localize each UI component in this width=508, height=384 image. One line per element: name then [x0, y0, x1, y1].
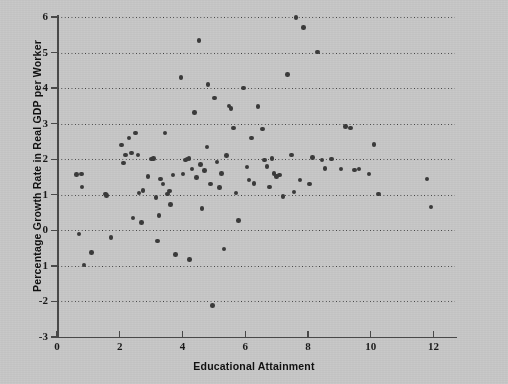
data-point	[222, 247, 227, 252]
x-tick-label: 12	[419, 340, 449, 352]
data-point	[200, 206, 205, 211]
data-point	[155, 239, 160, 244]
data-point	[256, 104, 261, 109]
data-point	[129, 151, 134, 156]
data-point	[292, 190, 297, 195]
data-point	[260, 127, 265, 132]
data-point	[301, 25, 306, 30]
data-point	[208, 182, 213, 187]
y-tick-mark	[51, 265, 57, 266]
data-point	[139, 220, 144, 225]
data-point	[167, 189, 172, 194]
x-tick-mark	[307, 331, 308, 337]
data-point	[179, 75, 184, 80]
y-tick-label-wrap: -3	[0, 330, 48, 342]
data-point	[277, 173, 282, 178]
gridline	[58, 17, 455, 18]
data-point	[323, 166, 328, 171]
y-axis-line	[57, 15, 59, 338]
data-point	[154, 195, 159, 200]
data-point	[267, 185, 272, 190]
gridline	[58, 301, 455, 302]
data-point	[217, 185, 222, 190]
data-point	[315, 50, 320, 55]
x-axis-title: Educational Attainment	[0, 360, 508, 372]
data-point	[158, 177, 163, 182]
data-point	[187, 156, 192, 161]
data-point	[190, 167, 195, 172]
scatter-plot-figure: 65432101-2-3 024681012 Educational Attai…	[0, 0, 508, 384]
gridline	[58, 88, 455, 89]
data-point	[241, 86, 246, 91]
data-point	[202, 168, 207, 173]
data-point	[281, 194, 286, 199]
data-point	[74, 172, 79, 177]
data-point	[224, 153, 229, 158]
gridline	[58, 159, 455, 160]
y-tick-mark	[51, 230, 57, 231]
data-point	[104, 193, 109, 198]
data-point	[339, 167, 344, 172]
y-tick-mark	[51, 87, 57, 88]
data-point	[121, 161, 126, 166]
x-tick-mark	[245, 331, 246, 337]
data-point	[79, 172, 84, 177]
gridline	[58, 53, 455, 54]
data-point	[157, 213, 162, 218]
data-point	[146, 174, 151, 179]
y-tick-mark	[51, 52, 57, 53]
data-point	[310, 155, 315, 160]
data-point	[352, 168, 357, 173]
data-point	[141, 188, 146, 193]
data-point	[289, 153, 294, 158]
data-point	[151, 156, 156, 161]
data-point	[187, 257, 192, 262]
data-point	[210, 303, 215, 308]
data-point	[357, 167, 362, 172]
data-point	[367, 172, 372, 177]
data-point	[89, 250, 94, 255]
data-point	[171, 173, 176, 178]
data-point	[229, 106, 234, 111]
data-point	[80, 185, 85, 190]
data-point	[247, 178, 252, 183]
x-tick-label: 10	[356, 340, 386, 352]
data-point	[197, 38, 202, 43]
data-point	[320, 158, 325, 163]
data-point	[307, 182, 312, 187]
data-point	[236, 218, 241, 223]
gridline	[58, 230, 455, 231]
data-point	[163, 131, 168, 136]
y-axis-title: Percentage Growth Rate in Real GDP per W…	[31, 21, 43, 311]
data-point	[265, 164, 270, 169]
data-point	[298, 178, 303, 183]
data-point	[231, 126, 236, 131]
x-tick-mark	[119, 331, 120, 337]
data-point	[136, 153, 141, 158]
y-tick-mark	[51, 301, 57, 302]
data-point	[249, 136, 254, 141]
x-tick-mark	[182, 331, 183, 337]
y-tick-mark	[51, 123, 57, 124]
x-tick-mark	[370, 331, 371, 337]
x-tick-label: 6	[230, 340, 260, 352]
data-point	[262, 158, 267, 163]
data-point	[127, 136, 132, 141]
data-point	[429, 205, 434, 210]
data-point	[348, 126, 353, 131]
data-point	[372, 142, 377, 147]
data-point	[109, 235, 114, 240]
data-point	[194, 175, 199, 180]
x-tick-mark	[433, 331, 434, 337]
y-tick-mark	[51, 194, 57, 195]
gridline	[58, 266, 455, 267]
data-point	[252, 181, 257, 186]
x-tick-label: 4	[168, 340, 198, 352]
gridline	[58, 124, 455, 125]
data-point	[329, 157, 334, 162]
data-point	[168, 202, 173, 207]
data-point	[123, 153, 128, 158]
x-tick-label: 8	[293, 340, 323, 352]
data-point	[425, 177, 430, 182]
y-tick-mark	[51, 159, 57, 160]
